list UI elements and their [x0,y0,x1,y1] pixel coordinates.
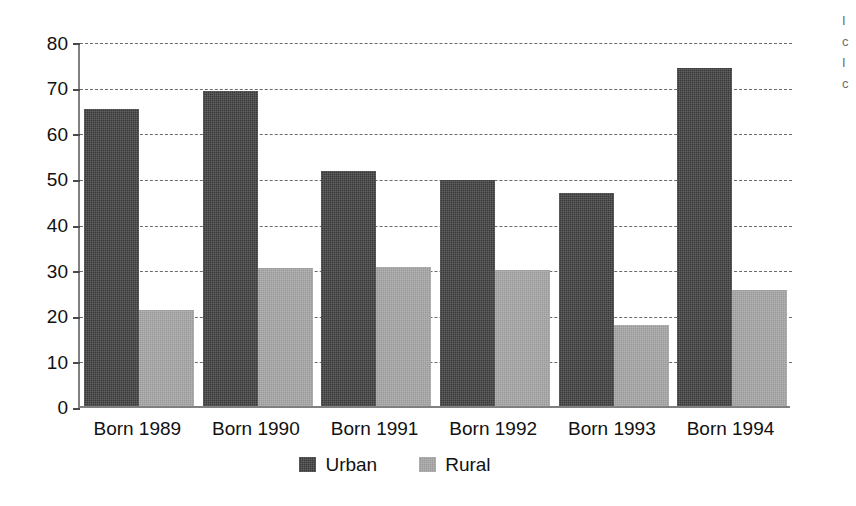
y-tick-label: 20 [47,307,68,326]
bar-rural-1989 [139,310,194,406]
y-tick-mark-80 [73,43,80,45]
y-tick-label: 50 [47,170,68,189]
margin-text-line: c [842,31,856,52]
bar-rural-1991 [376,267,431,406]
bar-urban-1992 [440,180,495,406]
y-tick-label: 0 [57,398,68,417]
dark-swatch-icon [299,457,316,472]
x-category-label-1990: Born 1990 [197,418,316,440]
y-tick-mark-50 [73,180,80,182]
y-tick-label: 70 [47,79,68,98]
bar-chart-figure: 80 70 60 50 40 30 20 10 0 [0,0,856,506]
bar-group-1994 [673,41,792,406]
y-tick-mark-10 [73,362,80,364]
plot-area [78,43,790,408]
bar-urban-1991 [321,171,376,406]
y-tick-mark-30 [73,271,80,273]
x-category-label-1992: Born 1992 [434,418,553,440]
y-tick-mark-0 [73,408,80,410]
bar-urban-1989 [84,109,139,406]
legend-label-rural: Rural [445,455,490,474]
y-tick-label: 40 [47,216,68,235]
y-tick-mark-40 [73,226,80,228]
bar-group-1991 [317,41,436,406]
y-tick-label: 80 [47,34,68,53]
bar-urban-1993 [559,193,614,406]
y-tick-label: 10 [47,353,68,372]
y-tick-mark-70 [73,89,80,91]
bar-urban-1990 [203,91,258,406]
legend-entry-urban: Urban [299,455,377,474]
y-axis-tick-labels: 80 70 60 50 40 30 20 10 0 [20,0,68,506]
y-tick-mark-20 [73,317,80,319]
bar-group-1989 [80,41,199,406]
margin-text-line: c [842,73,856,94]
x-category-label-1991: Born 1991 [315,418,434,440]
y-tick-mark-60 [73,134,80,136]
bar-group-1993 [555,41,674,406]
bar-rural-1990 [258,268,313,406]
light-swatch-icon [419,457,436,472]
bar-rural-1993 [614,325,669,406]
x-category-label-1993: Born 1993 [553,418,672,440]
bar-group-1990 [199,41,318,406]
y-tick-label: 30 [47,262,68,281]
legend-label-urban: Urban [325,455,377,474]
cropped-margin-text: I c I c [842,10,856,115]
margin-text-line: I [842,52,856,73]
y-tick-label: 60 [47,125,68,144]
bar-urban-1994 [677,68,732,406]
x-category-label-1989: Born 1989 [78,418,197,440]
bar-rural-1992 [495,270,550,406]
bar-rural-1994 [732,290,787,406]
legend-entry-rural: Rural [419,455,490,474]
bar-group-1992 [436,41,555,406]
chart-legend: Urban Rural [0,455,790,474]
margin-text-line: I [842,10,856,31]
x-category-label-1994: Born 1994 [671,418,790,440]
